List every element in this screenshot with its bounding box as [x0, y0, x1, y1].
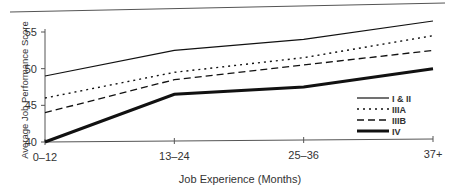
x-tick-label: 13–24 — [159, 150, 190, 162]
series-lines — [45, 21, 433, 142]
x-axis-label: Job Experience (Months) — [179, 173, 301, 185]
x-tick-label: 25–36 — [288, 149, 319, 161]
series-line-i-ii — [45, 21, 433, 76]
y-axis-label: Average Job Performance Score — [19, 21, 30, 159]
x-tick-label: 0–12 — [33, 151, 57, 163]
legend: I & IIIIIAIIIBIV — [357, 94, 411, 137]
legend-label: IIIB — [392, 116, 407, 126]
chart-container: 404550550–1213–2425–3637+ I & IIIIIAIIIB… — [0, 0, 450, 193]
axes: 404550550–1213–2425–3637+ — [25, 26, 443, 163]
series-line-iiib — [45, 50, 433, 112]
x-axis — [45, 139, 433, 142]
legend-label: I & II — [392, 94, 411, 104]
legend-label: IV — [392, 127, 401, 137]
top-rule — [10, 3, 445, 12]
line-chart: 404550550–1213–2425–3637+ I & IIIIIAIIIB… — [0, 0, 450, 193]
x-tick-label: 37+ — [424, 148, 443, 160]
legend-label: IIIA — [392, 105, 407, 115]
